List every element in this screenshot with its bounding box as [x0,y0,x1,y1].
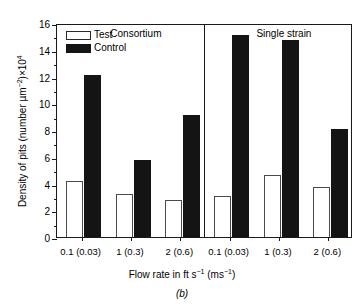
x-axis-tick-label: 0.1 (0.03) [60,246,101,257]
y-axis-tick [52,52,57,53]
y-axis-minor-tick [54,119,57,120]
x-axis-tick-label: 0.1 (0.03) [208,246,249,257]
legend-label: Control [94,43,126,53]
x-axis-tick-label: 2 (0.6) [166,246,193,257]
bar-control-6 [331,129,348,237]
y-axis-tick-label: 12 [39,74,50,84]
bar-test-5 [264,175,281,237]
x-axis-tick [328,237,329,241]
y-axis-tick [52,186,57,187]
figure-panel-b: Density of pits (number µm−2)×104 024681… [0,0,364,306]
bar-control-3 [183,115,200,237]
x-axis-tick [279,237,280,241]
y-axis-minor-tick [54,38,57,39]
x-axis-tick [180,237,181,241]
x-axis-tick [131,237,132,241]
y-axis-tick-label: 14 [39,47,50,57]
x-axis-tick-label: 1 (0.3) [116,246,143,257]
legend-item-control: Control [66,42,126,54]
y-axis-minor-tick [54,172,57,173]
y-axis-tick-label: 4 [44,181,50,191]
y-axis-tick [52,212,57,213]
y-axis-tick-label: 6 [44,154,50,164]
x-axis-title: Flow rate in ft s−1 (ms−1) [0,268,364,280]
legend-swatch-control [66,44,91,53]
y-axis-tick [52,79,57,80]
bar-test-1 [66,181,83,237]
bar-control-2 [134,160,151,237]
group-label-consortium: Consortium [110,28,161,39]
legend-swatch-test [66,31,91,40]
figure-caption: (b) [0,288,364,299]
y-axis-tick [52,25,57,26]
x-axis-tick [230,237,231,241]
x-axis-tick-label: 1 (0.3) [264,246,291,257]
bar-test-3 [165,200,182,237]
y-axis-title: Density of pits (number µm−2)×104 [16,16,28,246]
y-axis-tick [52,239,57,240]
bar-test-2 [116,194,133,237]
bar-control-5 [282,40,299,237]
bar-control-1 [84,75,101,237]
y-axis-tick-label: 16 [39,20,50,30]
y-axis-minor-tick [54,92,57,93]
x-axis-tick-label: 2 (0.6) [314,246,341,257]
x-axis-tick [82,237,83,241]
y-axis-tick [52,105,57,106]
bar-test-6 [313,187,330,237]
y-axis-minor-tick [54,199,57,200]
bars-container [57,25,351,237]
y-axis-minor-tick [54,65,57,66]
bar-control-4 [232,35,249,237]
y-axis-tick-label: 8 [44,127,50,137]
group-label-single-strain: Single strain [256,28,311,39]
y-axis-tick-label: 2 [44,207,50,217]
y-axis-tick [52,132,57,133]
y-axis-tick-label: 10 [39,100,50,110]
y-axis-minor-tick [54,226,57,227]
y-axis-tick [52,159,57,160]
bar-test-4 [214,196,231,237]
plot-area: 0246810121416 [56,24,352,238]
y-axis-tick-label: 0 [44,234,50,244]
y-axis-minor-tick [54,145,57,146]
